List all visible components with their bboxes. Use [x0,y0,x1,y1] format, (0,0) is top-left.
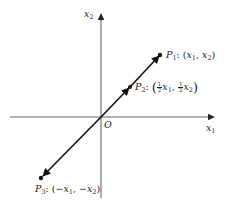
p1-sep: : ( [177,49,187,60]
p1-label: P1: (x1, x2) [166,50,215,62]
p2-comma: , [172,81,178,92]
p3-close: ) [96,183,100,194]
point-p3 [39,176,43,180]
p3-c2: −x [79,183,92,194]
p3-label: P3: (−x1, −x2) [35,184,100,196]
p3-c1: −x [55,183,68,194]
point-p1 [158,53,162,57]
x1-label-sub: 1 [211,127,215,135]
vector-diagram [0,0,228,206]
p2-close-paren: ) [193,80,198,95]
origin-label: O [104,120,112,130]
p3-sep: : ( [46,183,56,194]
x1-axis-label: x1 [206,123,216,135]
p2-open-paren: ( [152,80,157,95]
x2-axis-label: x2 [84,9,94,21]
p2-label: P2: (12x1, 12x2) [135,81,198,94]
p1-close: ) [212,49,216,60]
vector-p2 [101,88,129,117]
x2-label-sub: 2 [89,13,93,21]
point-p2 [128,85,132,89]
vector-p3 [43,117,101,176]
